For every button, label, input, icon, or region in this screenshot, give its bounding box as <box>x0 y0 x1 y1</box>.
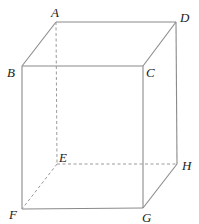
edge-EF-hidden <box>22 164 57 209</box>
edge-FG <box>22 208 143 209</box>
edge-DH <box>176 22 177 164</box>
cuboid-diagram: A B C D E F G H <box>0 0 199 224</box>
edge-AB <box>22 22 56 66</box>
edge-GH <box>143 164 177 208</box>
vertex-label-B: B <box>7 65 15 80</box>
vertex-label-C: C <box>146 65 155 80</box>
edge-CD <box>143 22 176 66</box>
edge-AE-hidden <box>56 22 57 164</box>
vertex-label-H: H <box>181 158 192 173</box>
vertex-label-E: E <box>58 150 67 165</box>
vertex-label-D: D <box>179 10 190 25</box>
vertex-label-G: G <box>142 210 152 224</box>
vertex-label-A: A <box>50 5 59 20</box>
vertex-label-F: F <box>8 207 18 222</box>
